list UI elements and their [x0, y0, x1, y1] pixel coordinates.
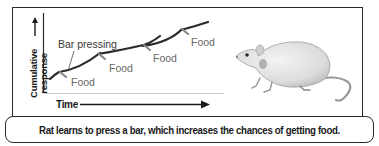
food-label-4: Food	[191, 36, 215, 48]
time-arrow-icon	[80, 101, 210, 109]
y-axis-label: Cumulative response	[22, 18, 56, 98]
food-label-1: Food	[71, 76, 95, 88]
caption-box: Rat learns to press a bar, which increas…	[5, 116, 374, 143]
food-label-2: Food	[109, 62, 133, 74]
bar-pressing-label: Bar pressing	[58, 38, 117, 50]
caption-text: Rat learns to press a bar, which increas…	[39, 124, 340, 136]
food-label-3: Food	[153, 52, 177, 64]
y-axis-label-line2: response	[39, 49, 49, 98]
x-axis-label: Time	[56, 99, 78, 110]
rat-icon	[228, 32, 358, 104]
